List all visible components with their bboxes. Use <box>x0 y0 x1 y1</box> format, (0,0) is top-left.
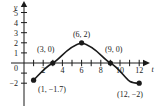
x-tick-label-12: 12 <box>135 66 143 75</box>
point-label-12: (12, −2) <box>117 90 143 99</box>
x-tick-label-10: 10 <box>116 66 124 75</box>
x-axis-arrow-icon <box>143 60 150 66</box>
point-label-1: (1, −1.7) <box>38 85 66 94</box>
data-point-9 <box>108 60 113 65</box>
y-tick-label-1: 1 <box>14 49 18 58</box>
graph-figure: 5 4 3 2 1 0 −2 2 4 6 8 10 12 y t (1, −1.… <box>0 0 159 106</box>
x-tick-label-2: 2 <box>41 66 45 75</box>
y-tick-label-0: 0 <box>14 64 18 73</box>
y-tick-label-3: 3 <box>14 29 18 38</box>
point-label-6: (6, 2) <box>73 30 91 39</box>
y-tick-label-minus2: −2 <box>9 79 18 88</box>
data-point-12 <box>137 81 142 86</box>
y-tick-label-4: 4 <box>14 19 18 28</box>
x-tick-label-6: 6 <box>80 66 84 75</box>
data-point-1 <box>31 78 36 83</box>
y-axis-arrow-icon <box>21 1 27 7</box>
x-tick-label-8: 8 <box>99 66 103 75</box>
y-tick-label-2: 2 <box>14 39 18 48</box>
data-point-3 <box>50 60 55 65</box>
x-tick-label-4: 4 <box>60 66 64 75</box>
point-label-3: (3, 0) <box>37 45 55 54</box>
point-label-9: (9, 0) <box>105 45 123 54</box>
x-axis-label: t <box>151 65 154 74</box>
coordinate-plot: 5 4 3 2 1 0 −2 2 4 6 8 10 12 y t (1, −1.… <box>0 0 159 106</box>
data-point-6 <box>79 40 84 45</box>
y-axis-label: y <box>13 3 18 12</box>
